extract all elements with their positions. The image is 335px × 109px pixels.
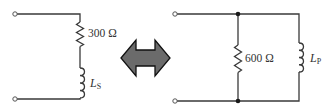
inductor-ls-label: LS (89, 76, 101, 91)
inductor-lp-icon (299, 43, 304, 72)
resistor-600-label: 600 Ω (245, 52, 274, 64)
bottom-junction-dot (236, 99, 241, 104)
series-circuit: 300 Ω LS (13, 12, 117, 101)
series-bottom-terminal (13, 97, 17, 101)
equivalence-arrow-icon (121, 40, 170, 76)
parallel-circuit: 600 Ω LP (173, 12, 322, 104)
series-top-terminal (13, 12, 17, 16)
resistor-300-label: 300 Ω (88, 27, 117, 39)
parallel-top-terminal (173, 12, 177, 16)
resistor-300-icon (77, 22, 84, 47)
inductor-lp-label: LP (309, 51, 322, 66)
series-top-wire (17, 14, 80, 22)
resistor-600-icon (235, 45, 242, 73)
parallel-bottom-terminal (173, 99, 177, 103)
circuit-equivalence-diagram: 300 Ω LS 600 Ω LP (0, 0, 335, 109)
top-junction-dot (236, 12, 241, 17)
inductor-ls-icon (80, 68, 85, 98)
series-bottom-wire (17, 98, 80, 99)
